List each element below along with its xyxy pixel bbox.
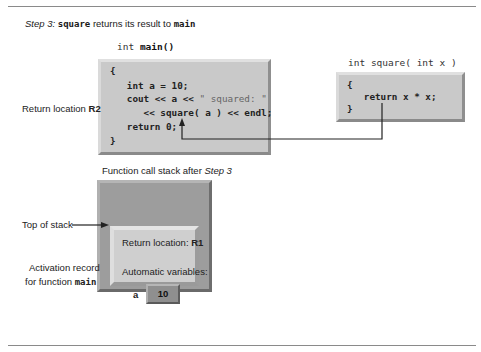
activation-record-for-text: for function	[25, 276, 75, 287]
activation-record-label-line2: for function main	[25, 276, 96, 287]
top-of-stack-arrow-icon	[0, 0, 481, 352]
activation-record-function-name: main	[75, 277, 97, 287]
activation-record-label-line1: Activation record	[29, 262, 100, 273]
bottom-rule	[8, 345, 476, 346]
